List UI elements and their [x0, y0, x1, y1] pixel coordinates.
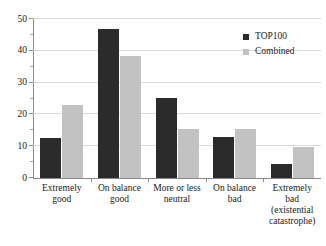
bar-combined: [293, 147, 314, 178]
legend-item-top100[interactable]: TOP100: [243, 29, 295, 44]
x-axis-category-label: On balancegood: [88, 183, 152, 205]
y-axis-minor-tick: [30, 129, 33, 130]
x-axis-category-label: More or lessneutral: [145, 183, 209, 205]
y-axis-minor-tick: [30, 161, 33, 162]
category-separator-tick: [91, 178, 92, 182]
y-axis-tick: [29, 113, 33, 114]
bar-chart: 01020304050 ExtremelygoodOn balancegoodM…: [0, 0, 326, 246]
category-separator-tick: [263, 178, 264, 182]
bar-combined: [62, 105, 83, 178]
bar-top100: [271, 164, 292, 178]
bar-top100: [156, 98, 177, 178]
y-axis-tick: [29, 50, 33, 51]
chart-legend: TOP100Combined: [243, 29, 295, 59]
y-axis-minor-tick: [30, 34, 33, 35]
x-axis-category-label: On balancebad: [203, 183, 267, 205]
y-axis-tick: [29, 18, 33, 19]
y-axis-tick: [29, 145, 33, 146]
y-axis-tick-label: 0: [22, 173, 27, 183]
y-gridline: [33, 18, 321, 19]
x-axis-line: [33, 178, 321, 179]
category-separator-tick: [206, 178, 207, 182]
y-axis-tick-label: 20: [18, 110, 28, 120]
legend-label: Combined: [255, 47, 295, 57]
legend-swatch-icon: [243, 49, 249, 55]
category-separator-tick: [148, 178, 149, 182]
y-axis-tick-label: 50: [18, 14, 28, 24]
legend-item-combined[interactable]: Combined: [243, 44, 295, 59]
legend-label: TOP100: [255, 32, 287, 42]
bar-combined: [235, 129, 256, 178]
legend-swatch-icon: [243, 34, 249, 40]
x-axis-category-label: Extremelygood: [30, 183, 94, 205]
y-axis-tick-label: 40: [18, 46, 28, 56]
y-gridline: [33, 82, 321, 83]
x-axis-category-label: Extremelybad(existentialcatastrophe): [260, 183, 324, 227]
bar-combined: [178, 129, 199, 178]
y-axis-tick: [29, 82, 33, 83]
bar-top100: [40, 138, 61, 178]
bar-top100: [213, 137, 234, 178]
y-axis-tick-label: 30: [18, 78, 28, 88]
y-axis-tick-label: 10: [18, 141, 28, 151]
y-axis-minor-tick: [30, 98, 33, 99]
y-axis-minor-tick: [30, 66, 33, 67]
bar-top100: [98, 29, 119, 178]
y-axis-tick: [29, 177, 33, 178]
bar-combined: [120, 56, 141, 178]
